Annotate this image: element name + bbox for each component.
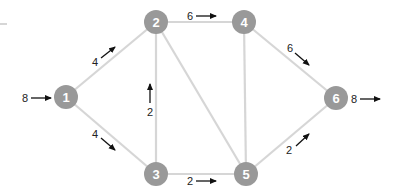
- node-4: 4: [232, 10, 256, 34]
- edge-5-6: [246, 98, 336, 174]
- arrow-1-2-icon: [101, 47, 115, 58]
- node-3: 3: [144, 162, 168, 186]
- edges: [66, 22, 336, 174]
- edge-1-3: [66, 97, 156, 174]
- outflow-label: 8: [351, 93, 357, 105]
- node-6-label: 6: [332, 91, 339, 106]
- node-5-label: 5: [242, 167, 249, 182]
- flow-label-5-6: 2: [286, 144, 292, 156]
- flow-label-1-2: 4: [92, 56, 98, 68]
- arrow-1-3-icon: [101, 138, 115, 150]
- flow-label-1-3: 4: [92, 128, 98, 140]
- flow-label-2-4: 6: [187, 10, 193, 22]
- node-1: 1: [54, 85, 78, 109]
- flow-label-3-2: 2: [147, 106, 153, 118]
- edge-1-2: [66, 22, 156, 97]
- node-4-label: 4: [240, 15, 248, 30]
- arrow-5-6-icon: [296, 134, 309, 146]
- node-6: 6: [324, 86, 348, 110]
- node-3-label: 3: [152, 167, 159, 182]
- arrow-4-6-icon: [295, 53, 309, 65]
- node-1-label: 1: [62, 90, 69, 105]
- node-2-label: 2: [152, 15, 159, 30]
- node-5: 5: [234, 162, 258, 186]
- inflow-label: 8: [22, 92, 28, 104]
- flow-network-diagram: 8 4 4 2 6 2 6 2 8 1 2: [0, 0, 399, 194]
- flow-label-3-5: 2: [187, 175, 193, 187]
- node-2: 2: [144, 10, 168, 34]
- edge-4-5: [244, 22, 246, 174]
- flow-label-4-6: 6: [287, 42, 293, 54]
- edge-4-6: [244, 22, 336, 98]
- edge-2-5: [156, 22, 246, 174]
